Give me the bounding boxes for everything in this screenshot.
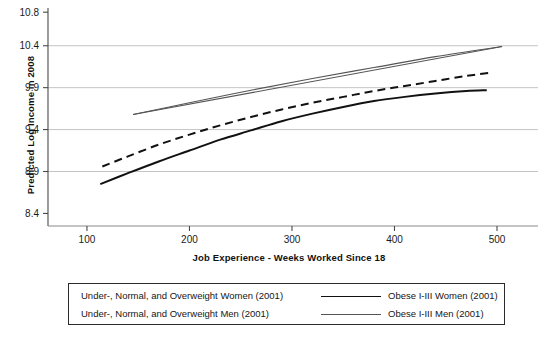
series-lines bbox=[100, 47, 502, 185]
legend-row: Under-, Normal, and Overweight Women (20… bbox=[69, 286, 506, 305]
gridlines bbox=[48, 46, 538, 172]
y-axis-title: Predicted Log Income in 2008 bbox=[20, 5, 40, 245]
legend-label-underweight-men: Under-, Normal, and Overweight Men (2001… bbox=[81, 308, 269, 319]
legend-entry-obese-women: Obese I-III Women (2001) bbox=[321, 290, 498, 301]
x-tick-label: 100 bbox=[79, 234, 96, 245]
legend-swatch-obese-men-icon bbox=[321, 310, 381, 318]
legend-label-underweight-women: Under-, Normal, and Overweight Women (20… bbox=[81, 290, 283, 301]
x-tick-label: 400 bbox=[386, 234, 403, 245]
series-line bbox=[102, 73, 492, 167]
legend-entry-obese-men: Obese I-III Men (2001) bbox=[321, 308, 484, 319]
legend-label-obese-men: Obese I-III Men (2001) bbox=[388, 308, 484, 319]
chart-figure: 8.48.99.49.910.410.8 100200300400500 Pre… bbox=[0, 0, 542, 337]
legend-swatch-obese-women-icon bbox=[321, 292, 381, 300]
x-axis-title: Job Experience - Weeks Worked Since 18 bbox=[48, 252, 530, 263]
axis-lines bbox=[48, 8, 538, 226]
x-tick-label: 200 bbox=[181, 234, 198, 245]
legend-row: Under-, Normal, and Overweight Men (2001… bbox=[69, 304, 506, 323]
x-tick-label: 500 bbox=[489, 234, 506, 245]
y-axis-title-text: Predicted Log Income in 2008 bbox=[25, 56, 36, 194]
x-axis-ticks: 100200300400500 bbox=[79, 226, 506, 245]
legend-label-obese-women: Obese I-III Women (2001) bbox=[388, 290, 498, 301]
x-tick-label: 300 bbox=[284, 234, 301, 245]
series-line bbox=[100, 90, 486, 184]
series-line bbox=[133, 47, 502, 115]
legend: Under-, Normal, and Overweight Women (20… bbox=[68, 283, 505, 325]
